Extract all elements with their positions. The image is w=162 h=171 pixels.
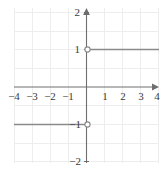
x-tick-label-2: 2 xyxy=(120,90,126,102)
coordinate-plane-figure: −4 −3 −2 −1 1 2 3 4 2 1 −1 −2 xyxy=(0,0,162,171)
y-tick-label-1: 1 xyxy=(75,43,81,55)
y-tick-label--1: −1 xyxy=(69,118,81,130)
x-tick-label-1: 1 xyxy=(102,90,108,102)
plot-background xyxy=(0,0,162,171)
open-point-0--1 xyxy=(85,122,90,127)
x-tick-label--2: −2 xyxy=(44,90,56,102)
plot-area: −4 −3 −2 −1 1 2 3 4 2 1 −1 −2 xyxy=(0,0,162,171)
x-tick-label--1: −1 xyxy=(62,90,74,102)
x-tick-label--4: −4 xyxy=(8,90,20,102)
open-point-0-1 xyxy=(85,47,90,52)
x-tick-label-4: 4 xyxy=(154,90,160,102)
x-tick-label--3: −3 xyxy=(26,90,38,102)
y-tick-label--2: −2 xyxy=(69,155,81,167)
y-tick-label-2: 2 xyxy=(75,6,81,18)
x-tick-label-3: 3 xyxy=(138,90,144,102)
